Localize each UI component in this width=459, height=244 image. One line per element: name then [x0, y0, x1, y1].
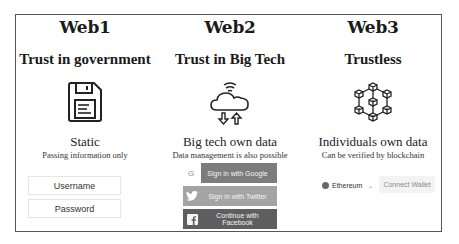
- chevron-down-icon: ⌄: [368, 182, 373, 189]
- web2-column: Web2 Trust in Big Tech Big tech own data…: [158, 0, 302, 244]
- web3-subheading: Can be verified by blockchain: [304, 150, 442, 160]
- web3-trust-label: Trustless: [304, 51, 442, 68]
- web2-heading: Big tech own data: [158, 134, 302, 150]
- connect-wallet-button[interactable]: Connect Wallet: [379, 176, 435, 193]
- web2-title: Web2: [158, 17, 302, 37]
- sign-in-google-button[interactable]: Sign in with Google: [201, 163, 277, 183]
- network-selector-label: Ethereum: [332, 182, 362, 189]
- web1-trust-label: Trust in government: [15, 51, 155, 68]
- web2-trust-label: Trust in Big Tech: [158, 51, 302, 68]
- ethereum-icon: [322, 182, 329, 189]
- google-button-label: Sign in with Google: [201, 170, 277, 177]
- password-field[interactable]: Password: [28, 199, 121, 218]
- web3-heading: Individuals own data: [304, 134, 442, 150]
- blockchain-network-icon: [351, 80, 395, 124]
- username-field[interactable]: Username: [28, 176, 121, 195]
- web1-subheading: Passing information only: [15, 150, 155, 160]
- sign-in-twitter-button[interactable]: Sign in with Twitter: [183, 186, 277, 206]
- google-icon: G: [185, 167, 197, 179]
- web2-subheading: Data management is also possible: [158, 150, 302, 160]
- cloud-sync-icon: [208, 80, 252, 126]
- web1-heading: Static: [15, 134, 155, 150]
- web3-title: Web3: [304, 17, 442, 37]
- twitter-button-label: Sign in with Twitter: [201, 193, 277, 200]
- network-selector[interactable]: Ethereum ⌄: [322, 178, 373, 192]
- web1-title: Web1: [15, 17, 155, 37]
- facebook-button-label: Continue with Facebook: [201, 212, 277, 226]
- facebook-icon: [183, 214, 201, 225]
- continue-facebook-button[interactable]: Continue with Facebook: [183, 209, 277, 229]
- floppy-disk-icon: [65, 80, 105, 124]
- twitter-bird-icon: [183, 191, 201, 201]
- web3-column: Web3 Trustless In: [304, 0, 442, 244]
